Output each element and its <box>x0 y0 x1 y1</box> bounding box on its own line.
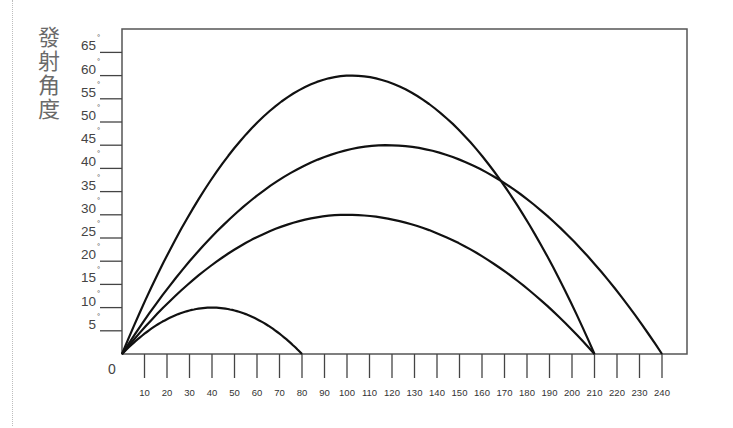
degree-symbol: ° <box>97 242 100 251</box>
degree-symbol: ° <box>97 126 100 135</box>
x-tick-label: 110 <box>362 387 377 398</box>
x-tick-label: 90 <box>319 387 330 398</box>
degree-symbol: ° <box>97 149 100 158</box>
x-tick-label: 240 <box>654 387 670 398</box>
trajectory-30deg <box>122 215 595 354</box>
y-tick-label: 50 <box>81 108 96 123</box>
degree-symbol: ° <box>97 265 100 274</box>
x-tick-label: 170 <box>497 387 513 398</box>
y-tick-label: 10 <box>81 294 96 309</box>
x-tick-label: 160 <box>474 387 490 398</box>
plot-frame <box>122 29 687 354</box>
trajectory-chart: 5°10°15°20°25°30°35°40°45°50°55°60°65° 1… <box>0 0 733 428</box>
y-tick-label: 60 <box>81 62 96 77</box>
x-tick-label: 210 <box>587 387 603 398</box>
x-tick-label: 130 <box>407 387 423 398</box>
degree-symbol: ° <box>97 33 100 42</box>
x-tick-label: 20 <box>162 387 173 398</box>
trajectory-curves <box>122 76 662 354</box>
y-tick-label: 35 <box>81 178 96 193</box>
x-tick-label: 230 <box>632 387 648 398</box>
x-tick-label: 60 <box>252 387 263 398</box>
degree-symbol: ° <box>97 173 100 182</box>
y-tick-label: 40 <box>81 154 96 169</box>
degree-symbol: ° <box>97 103 100 112</box>
degree-symbol: ° <box>97 289 100 298</box>
degree-symbol: ° <box>97 57 100 66</box>
y-tick-label: 25 <box>81 224 96 239</box>
x-tick-label: 120 <box>384 387 400 398</box>
x-tick-label: 150 <box>452 387 468 398</box>
degree-symbol: ° <box>97 219 100 228</box>
x-axis-ticks: 1020304050607080901001101201301401501601… <box>139 354 670 398</box>
y-tick-label: 20 <box>81 247 96 262</box>
degree-symbol: ° <box>97 80 100 89</box>
x-tick-label: 200 <box>564 387 580 398</box>
x-tick-label: 10 <box>139 387 150 398</box>
x-tick-label: 140 <box>429 387 445 398</box>
x-tick-label: 40 <box>207 387 218 398</box>
x-tick-label: 80 <box>297 387 308 398</box>
x-tick-label: 100 <box>339 387 355 398</box>
origin-label: 0 <box>108 361 116 377</box>
y-tick-label: 65 <box>81 38 96 53</box>
x-tick-label: 70 <box>274 387 285 398</box>
x-tick-label: 190 <box>542 387 558 398</box>
x-tick-label: 50 <box>229 387 240 398</box>
y-tick-label: 15 <box>81 270 96 285</box>
x-tick-label: 220 <box>609 387 625 398</box>
y-tick-label: 45 <box>81 131 96 146</box>
y-axis-ticks: 5°10°15°20°25°30°35°40°45°50°55°60°65° <box>81 33 122 331</box>
degree-symbol: ° <box>97 312 100 321</box>
y-tick-label: 5 <box>88 317 96 332</box>
degree-symbol: ° <box>97 196 100 205</box>
y-tick-label: 30 <box>81 201 96 216</box>
y-tick-label: 55 <box>81 85 96 100</box>
x-tick-label: 30 <box>184 387 195 398</box>
x-tick-label: 180 <box>519 387 535 398</box>
